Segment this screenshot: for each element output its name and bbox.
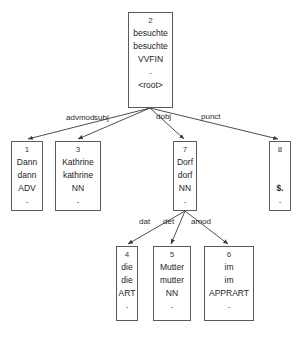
node-form: die [117,261,137,274]
node-feats: - [174,195,196,208]
node-pos: APPRART [205,287,253,300]
node-pos: ART [117,287,137,300]
node-index: 6 [205,249,253,261]
node-form: Mutter [154,261,190,274]
node-lemma: besuchte [129,40,172,53]
node-form: Dorf [174,156,196,169]
node-index: 8 [270,144,290,156]
node-index: 2 [129,15,172,27]
node-feats: - [154,300,190,313]
edge-label-subj: subj [94,113,109,122]
node-pos: $. [270,182,290,195]
node-lemma: . [270,169,290,182]
node-pos: ADV [12,182,42,195]
tree-node-5[interactable]: 5 Mutter mutter NN - [153,246,191,321]
edge-label-det: det [163,217,174,226]
node-feats: - [270,195,290,208]
tree-node-4[interactable]: 4 die die ART - [116,246,138,321]
edge-label-dat: dat [139,217,150,226]
node-lemma: dann [12,169,42,182]
node-index: 1 [12,144,42,156]
node-form: im [205,261,253,274]
edge-label-punct: punct [201,112,221,121]
node-feats: - [12,195,42,208]
node-lemma: im [205,274,253,287]
node-form: Kathrine [56,156,100,169]
node-form: Dann [12,156,42,169]
node-root-marker: <root> [129,79,172,92]
node-lemma: die [117,274,137,287]
edge-line-dat [128,211,185,244]
node-feats: - [117,300,137,313]
tree-node-1[interactable]: 1 Dann dann ADV - [11,141,43,211]
tree-node-2[interactable]: 2 besuchte besuchte VVFIN - <root> [128,12,173,108]
node-form: besuchte [129,27,172,40]
dependency-tree-diagram: 2 besuchte besuchte VVFIN - <root> 1 Dan… [0,0,300,341]
node-feats: - [205,300,253,313]
node-pos: NN [56,182,100,195]
node-pos: VVFIN [129,53,172,66]
node-form: . [270,156,290,169]
node-lemma: dorf [174,169,196,182]
tree-node-6[interactable]: 6 im im APPRART - [204,246,254,321]
edge-label-advmod: advmod [66,113,94,122]
edge-line-det [171,211,185,244]
node-pos: NN [154,287,190,300]
node-pos: NN [174,182,196,195]
tree-node-7[interactable]: 7 Dorf dorf NN - [173,141,197,211]
node-feats: - [129,66,172,79]
edge-line-amod [185,211,228,244]
node-index: 5 [154,249,190,261]
tree-node-8[interactable]: 8 . . $. - [269,141,291,211]
edge-label-amod: amod [191,217,211,226]
tree-node-3[interactable]: 3 Kathrine kathrine NN - [55,141,101,211]
node-lemma: mutter [154,274,190,287]
node-index: 4 [117,249,137,261]
node-lemma: kathrine [56,169,100,182]
node-feats: - [56,195,100,208]
node-index: 7 [174,144,196,156]
node-index: 3 [56,144,100,156]
edge-label-dobj: dobj [156,112,171,121]
